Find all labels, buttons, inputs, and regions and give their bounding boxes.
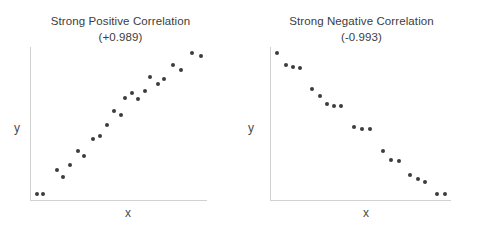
scatter-point [368, 127, 372, 131]
y-axis-label: y [248, 121, 254, 135]
scatter-point [82, 154, 86, 158]
scatter-point [119, 113, 123, 117]
scatter-point [76, 149, 80, 153]
scatter-point [156, 82, 160, 86]
plot-area-negative [270, 47, 451, 201]
scatter-point [68, 163, 72, 167]
scatter-point [112, 109, 116, 113]
scatter-point [360, 127, 364, 131]
scatter-point [199, 54, 203, 58]
scatter-point [61, 175, 65, 179]
scatter-point [143, 89, 147, 93]
scatter-point [318, 94, 322, 98]
scatter-point [41, 192, 45, 196]
scatter-point [325, 102, 329, 106]
scatter-point [291, 65, 295, 69]
chart-title-main: Strong Positive Correlation [0, 13, 241, 29]
x-axis-label: x [363, 206, 369, 220]
scatter-point [35, 192, 39, 196]
scatter-point [179, 68, 183, 72]
chart-title-main: Strong Negative Correlation [241, 13, 482, 29]
scatter-point [332, 104, 336, 108]
scatter-point [55, 168, 59, 172]
scatter-point [435, 192, 439, 196]
scatter-point [136, 97, 140, 101]
chart-title-positive: Strong Positive Correlation (+0.989) [0, 13, 241, 45]
x-axis-label: x [125, 206, 131, 220]
chart-title-negative: Strong Negative Correlation (-0.993) [241, 13, 482, 45]
scatter-point [443, 192, 447, 196]
scatter-panel-positive: Strong Positive Correlation (+0.989) y x [0, 0, 241, 236]
scatter-point [339, 104, 343, 108]
scatter-point [298, 66, 302, 70]
scatter-point [381, 149, 385, 153]
scatter-point [416, 177, 420, 181]
scatter-point [148, 75, 152, 79]
scatter-point [98, 134, 102, 138]
scatter-point [123, 96, 127, 100]
chart-title-correlation: (-0.993) [241, 29, 482, 45]
scatter-point [423, 180, 427, 184]
scatter-point [352, 125, 356, 129]
plot-area-positive [30, 47, 207, 201]
scatter-point [275, 51, 279, 55]
scatter-panel-negative: Strong Negative Correlation (-0.993) y x [241, 0, 482, 236]
scatter-point [105, 123, 109, 127]
scatter-point [171, 63, 175, 67]
scatter-point [130, 91, 134, 95]
scatter-point [408, 173, 412, 177]
scatter-point [389, 158, 393, 162]
scatter-point [310, 87, 314, 91]
chart-title-correlation: (+0.989) [0, 29, 241, 45]
scatter-point [162, 77, 166, 81]
scatter-point [91, 137, 95, 141]
y-axis-label: y [14, 121, 20, 135]
scatter-point [190, 51, 194, 55]
scatter-point [397, 159, 401, 163]
scatter-point [284, 63, 288, 67]
